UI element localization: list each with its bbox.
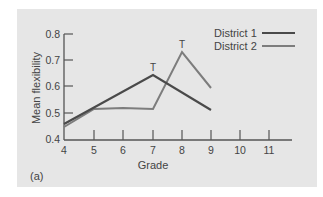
legend-label-district-2: District 2 [214,40,257,52]
y-axis-label: Mean flexibility [30,51,42,124]
x-tick-label: 8 [179,144,185,156]
chart: 0.8 0.7 0.6 0.5 0.4 4 5 6 7 8 9 10 11 Gr… [0,0,323,197]
x-tick-label: 6 [120,144,126,156]
annotation-t-district-1: T [150,62,156,73]
x-axis-label: Grade [138,159,169,171]
x-tick-label: 9 [208,144,214,156]
y-tick-label: 0.8 [45,28,60,40]
annotation-t-district-2: T [179,39,185,50]
x-tick-label: 11 [264,144,275,156]
x-tick-label: 4 [61,144,67,156]
y-tick-label: 0.5 [45,107,60,119]
x-tick-label: 5 [91,144,97,156]
panel-label: (a) [30,170,43,182]
y-tick-label: 0.6 [45,80,60,92]
legend-label-district-1: District 1 [214,27,257,39]
x-tick-label: 10 [234,144,246,156]
x-tick-label: 7 [150,144,156,156]
y-tick-label: 0.4 [45,133,60,145]
y-tick-label: 0.7 [45,54,60,66]
